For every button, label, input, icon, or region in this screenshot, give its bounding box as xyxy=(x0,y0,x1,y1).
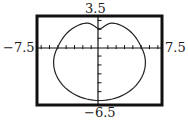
plot-svg xyxy=(0,0,188,122)
xmin-label: −7.5 xyxy=(3,41,35,54)
ymax-label: 3.5 xyxy=(85,2,106,15)
axis-ticks xyxy=(41,20,158,100)
polar-curve xyxy=(54,23,146,100)
ymin-label: −6.5 xyxy=(84,106,116,119)
xmax-label: 7.5 xyxy=(165,41,186,54)
